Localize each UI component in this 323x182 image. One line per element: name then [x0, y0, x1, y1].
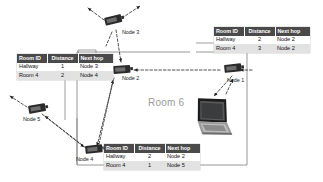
cell-room-id: Room 4	[104, 161, 134, 170]
column-header-room-id: Room ID	[214, 27, 244, 36]
node-label-node-3: Node 3	[122, 29, 139, 35]
cell-next-hop: Node 2	[275, 44, 310, 53]
table-header-row: Room ID Distance Next hop	[17, 54, 113, 63]
table-row: Room 4 2 Node 4	[17, 71, 113, 80]
cell-distance: 2	[47, 71, 78, 80]
node-label-node-1: Node 1	[227, 77, 244, 83]
node-label-node-5: Node 5	[23, 116, 40, 122]
routing-table-node-1: Room ID Distance Next hop Hallway 2 Node…	[214, 27, 310, 53]
column-header-room-id: Room ID	[17, 54, 47, 63]
cell-room-id: Room 4	[214, 44, 244, 53]
table-header-row: Room ID Distance Next hop	[104, 144, 200, 153]
routing-table-node-2: Room ID Distance Next hop Hallway 1 Node…	[17, 54, 113, 80]
cell-next-hop: Node 4	[78, 71, 113, 80]
device-node-4	[85, 144, 105, 154]
device-node-1	[224, 63, 244, 73]
cell-next-hop: Node 2	[165, 153, 200, 162]
table-row: Hallway 2 Node 2	[214, 36, 310, 45]
cell-distance: 2	[134, 153, 165, 162]
cell-distance: 3	[244, 44, 275, 53]
table-row: Hallway 2 Node 2	[104, 153, 200, 162]
network-routing-diagram: Room 6 Node 3 Node 2 Node 1 Node 5 Node …	[0, 0, 323, 182]
cell-next-hop: Node 5	[165, 161, 200, 170]
cell-next-hop: Node 3	[78, 63, 113, 72]
column-header-next-hop: Next hop	[275, 27, 310, 36]
cell-room-id: Hallway	[104, 153, 134, 162]
laptop-device	[193, 95, 237, 138]
node-label-node-2: Node 2	[122, 75, 139, 81]
cell-room-id: Hallway	[17, 63, 47, 72]
cell-distance: 1	[134, 161, 165, 170]
cell-room-id: Room 4	[17, 71, 47, 80]
cell-distance: 2	[244, 36, 275, 45]
column-header-next-hop: Next hop	[165, 144, 200, 153]
table-row: Room 4 1 Node 5	[104, 161, 200, 170]
node-label-node-4: Node 4	[76, 156, 93, 162]
routing-table-node-4: Room ID Distance Next hop Hallway 2 Node…	[104, 144, 200, 170]
table-row: Hallway 1 Node 3	[17, 63, 113, 72]
column-header-distance: Distance	[47, 54, 78, 63]
cell-distance: 1	[47, 63, 78, 72]
device-node-3	[104, 13, 125, 26]
column-header-room-id: Room ID	[104, 144, 134, 153]
cell-room-id: Hallway	[214, 36, 244, 45]
column-header-distance: Distance	[244, 27, 275, 36]
table-header-row: Room ID Distance Next hop	[214, 27, 310, 36]
cell-next-hop: Node 2	[275, 36, 310, 45]
room-label: Room 6	[148, 97, 184, 108]
device-node-2	[113, 65, 133, 74]
column-header-distance: Distance	[134, 144, 165, 153]
table-row: Room 4 3 Node 2	[214, 44, 310, 53]
device-node-5	[28, 103, 49, 114]
column-header-next-hop: Next hop	[78, 54, 113, 63]
